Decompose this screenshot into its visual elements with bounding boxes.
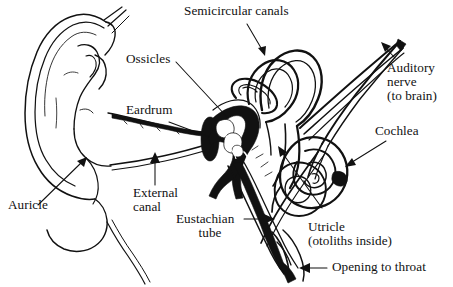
leader-ossicles — [176, 62, 228, 118]
label-semicircular-canals: Semicircular canals — [184, 4, 289, 19]
label-opening-to-throat: Opening to throat — [332, 260, 426, 275]
label-ossicles: Ossicles — [126, 52, 170, 67]
label-eustachian-tube-line2: tube — [176, 226, 244, 241]
label-auricle: Auricle — [8, 198, 48, 213]
external-canal-shape — [108, 113, 214, 170]
label-external-canal-line2: canal — [133, 200, 161, 215]
neck-outline — [107, 220, 150, 284]
label-cochlea: Cochlea — [375, 124, 419, 139]
label-eardrum: Eardrum — [126, 103, 173, 118]
auricle-shape — [25, 15, 115, 252]
leader-semicircular-canals — [247, 24, 266, 56]
ear-anatomy-diagram: Semicircular canals Ossicles Eardrum Aud… — [0, 0, 453, 287]
leader-cochlea — [345, 141, 386, 167]
label-auditory-nerve-line3: (to brain) — [387, 89, 437, 104]
label-utricle-line2: (otoliths inside) — [308, 234, 392, 249]
head-outline-strokes — [104, 7, 129, 33]
